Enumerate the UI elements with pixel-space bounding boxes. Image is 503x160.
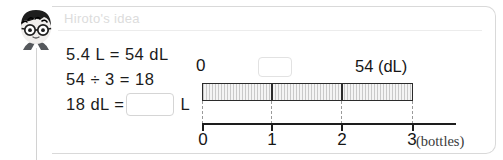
bottom-axis-label-2: 2 (337, 130, 346, 150)
equation-line-3: 18 dL = L (66, 92, 190, 117)
connector-0 (202, 101, 203, 124)
title-divider (58, 30, 482, 31)
connector-3 (412, 101, 413, 124)
avatar-connector-line (36, 48, 37, 160)
avatar-boy-glasses-icon (13, 6, 59, 53)
double-number-line-diagram: 0 54 (dL) 0 1 2 3 (bottles) (196, 52, 496, 154)
connector-2 (341, 101, 342, 124)
bottom-axis-label-0: 0 (198, 130, 207, 150)
idea-title: Hiroto's idea (64, 11, 140, 26)
worksheet-canvas: Hiroto's idea 5.4 L = 54 dL 54 ÷ 3 = 18 … (0, 0, 503, 160)
equation-line-2: 54 ÷ 3 = 18 (66, 67, 190, 92)
connector-1 (271, 101, 272, 124)
bottom-axis-unit-label: (bottles) (416, 133, 464, 150)
top-axis-end-label: 54 (dL) (355, 57, 407, 76)
unknown-value-input-box[interactable] (258, 57, 292, 77)
equation-line-1: 5.4 L = 54 dL (66, 42, 190, 67)
avatar (13, 6, 59, 53)
answer-input-box[interactable] (126, 93, 174, 116)
quantity-bar (202, 83, 413, 101)
top-axis-start-label: 0 (196, 56, 205, 76)
equation-line-3-prefix: 18 dL = (66, 92, 124, 117)
equation-list: 5.4 L = 54 dL 54 ÷ 3 = 18 18 dL = L (66, 42, 190, 117)
bottom-axis-line (202, 123, 456, 125)
bar-divider-2 (341, 84, 343, 100)
equation-line-3-unit: L (180, 92, 190, 117)
bottom-axis-label-1: 1 (267, 130, 276, 150)
bar-divider-1 (271, 84, 273, 100)
